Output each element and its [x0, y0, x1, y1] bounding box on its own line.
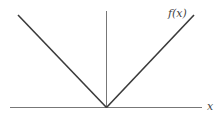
- function-plot: f(x) x: [0, 0, 219, 115]
- curve-left-branch: [18, 15, 107, 108]
- x-axis-label: x: [207, 100, 214, 113]
- curve-right-branch: [107, 15, 195, 108]
- function-label: f(x): [167, 7, 187, 20]
- plot-canvas: f(x) x: [0, 0, 219, 115]
